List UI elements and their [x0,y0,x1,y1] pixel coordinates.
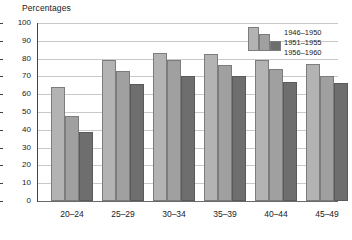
bar-group [51,23,93,201]
y-axis-tick-label: 70 [7,72,31,80]
y-axis-tick [0,148,3,149]
bar [334,83,348,201]
x-axis-tick-label: 45–49 [297,209,352,219]
bar [130,84,144,201]
y-axis-tick [0,165,3,166]
bar [116,71,130,201]
y-axis-tick [0,59,3,60]
bar [232,76,246,201]
y-axis-tick-label: 50 [7,108,31,116]
y-axis-tick [0,23,3,24]
legend-label: 1956–1960 [284,48,322,57]
legend-label: 1951–1955 [284,38,322,47]
legend-swatch [270,41,281,51]
y-axis-tick-label: 60 [7,90,31,98]
y-axis-tick-label: 30 [7,144,31,152]
chart-title: Percentages [22,3,71,13]
bar [320,76,334,201]
y-axis-tick [0,183,3,184]
bar [65,116,79,201]
y-axis-tick [0,112,3,113]
bar [51,87,65,201]
y-axis-tick-label: 20 [7,161,31,169]
y-axis-tick [0,41,3,42]
bar [181,76,195,201]
bar [167,60,181,201]
bar-group [102,23,144,201]
bar [269,69,283,201]
y-axis-tick [0,76,3,77]
bar [306,64,320,201]
bar [255,60,269,201]
y-axis-tick-label: 40 [7,126,31,134]
y-axis-tick [0,130,3,131]
legend-item: 1956–1960 [248,47,342,58]
bar [283,82,297,201]
bar [204,54,218,201]
legend: 1946–19501951–19551956–1960 [248,27,342,59]
bar [153,53,167,201]
bar [218,65,232,201]
y-axis-tick-label: 100 [7,19,31,27]
axis-baseline [38,201,338,202]
y-axis-tick-label: 10 [7,179,31,187]
y-axis-tick-label: 0 [7,197,31,205]
bar [79,132,93,201]
y-axis-tick-label: 80 [7,55,31,63]
bar [102,60,116,202]
y-axis-tick [0,201,3,202]
bar-group [153,23,195,201]
bar-group [204,23,246,201]
legend-label: 1946–1950 [284,28,322,37]
y-axis-tick-label: 90 [7,37,31,45]
y-axis-tick [0,94,3,95]
